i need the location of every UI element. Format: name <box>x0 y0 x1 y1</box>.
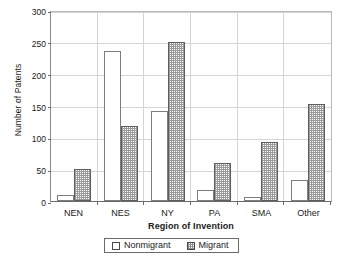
bar-migrant-ny <box>168 42 185 201</box>
bar-nonmigrant-nen <box>57 195 74 201</box>
x-axis-title: Region of Invention <box>50 221 332 231</box>
x-axis-tick-mark <box>143 201 144 205</box>
x-axis-tick-mark <box>237 201 238 205</box>
x-axis-tick-mark <box>190 201 191 205</box>
legend-entry-migrant: Migrant <box>187 241 229 250</box>
x-axis-tick-label: SMA <box>238 206 285 220</box>
x-axis-tick-label: NES <box>97 206 144 220</box>
bar-migrant-pa <box>214 163 231 201</box>
y-axis-tick-label: 150 <box>32 103 46 112</box>
bar-pair <box>98 12 145 201</box>
bar-nonmigrant-pa <box>197 190 214 201</box>
bar-group <box>284 12 331 201</box>
bar-nonmigrant-sma <box>244 197 261 201</box>
x-axis-tick-label: NEN <box>50 206 97 220</box>
y-axis-title: Number of Patents <box>13 20 23 180</box>
bar-nonmigrant-ny <box>151 111 168 201</box>
y-axis-tick-label: 100 <box>32 135 46 144</box>
y-axis-tick-label: 250 <box>32 40 46 49</box>
bar-group <box>144 12 191 201</box>
bar-groups <box>51 12 331 201</box>
y-axis-tick-mark <box>48 203 51 204</box>
bar-group <box>191 12 238 201</box>
bar-nonmigrant-nes <box>104 51 121 201</box>
x-axis-tick-label: NY <box>144 206 191 220</box>
x-axis-tick-mark <box>330 201 331 205</box>
bar-pair <box>284 12 331 201</box>
bar-group <box>51 12 98 201</box>
y-axis-tick-label: 50 <box>37 167 46 176</box>
x-axis-tick-label: PA <box>191 206 238 220</box>
bar-pair <box>51 12 98 201</box>
x-axis-tick-labels: NENNESNYPASMAOther <box>50 206 332 220</box>
y-axis-tick-label: 200 <box>32 71 46 80</box>
bar-nonmigrant-other <box>291 180 308 201</box>
x-axis-tick-label: Other <box>285 206 332 220</box>
bar-pair <box>144 12 191 201</box>
bar-chart: Number of Patents 050100150200250300 NEN… <box>0 0 346 263</box>
bar-group <box>238 12 285 201</box>
bar-group <box>98 12 145 201</box>
legend-label-migrant: Migrant <box>199 241 229 250</box>
bar-migrant-other <box>308 104 325 201</box>
bar-migrant-sma <box>261 142 278 201</box>
legend-entry-nonmigrant: Nonmigrant <box>112 241 171 250</box>
y-axis-tick-label: 0 <box>41 199 46 208</box>
x-axis-tick-mark <box>283 201 284 205</box>
legend-label-nonmigrant: Nonmigrant <box>124 241 171 250</box>
legend: Nonmigrant Migrant <box>104 238 239 253</box>
bar-pair <box>238 12 285 201</box>
legend-swatch-migrant <box>187 242 195 250</box>
x-axis-tick-mark <box>97 201 98 205</box>
plot-area: 050100150200250300 <box>50 11 332 202</box>
y-axis-tick-label: 300 <box>32 8 46 17</box>
bar-pair <box>191 12 238 201</box>
legend-swatch-nonmigrant <box>112 242 120 250</box>
bar-migrant-nen <box>74 169 91 201</box>
bar-migrant-nes <box>121 126 138 201</box>
